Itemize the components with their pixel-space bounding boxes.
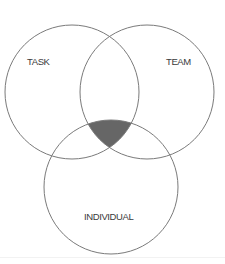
venn-diagram	[0, 0, 225, 264]
bottom-divider	[0, 257, 225, 258]
task-label: TASK	[27, 57, 50, 67]
overlap-region-group	[44, 120, 178, 254]
center-overlap-region	[44, 120, 178, 254]
individual-label: INDIVIDUAL	[84, 212, 133, 222]
team-label: TEAM	[166, 57, 191, 67]
